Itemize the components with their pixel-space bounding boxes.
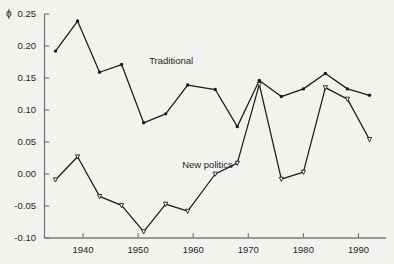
datapoint-new-politics-1951 [142,230,146,234]
x-tick-label-4: 1980 [283,244,323,255]
y-tick-label-3: 0.10 [2,104,36,115]
y-tick-label-1: 0.20 [2,40,36,51]
datapoint-traditional-1955 [164,112,167,115]
series-line-traditional [56,21,370,127]
y-tick-label-6: -0.05 [2,200,36,211]
x-tick-label-5: 1990 [338,244,378,255]
datapoint-traditional-1968 [236,125,239,128]
datapoint-traditional-1935 [54,49,57,52]
datapoint-new-politics-1984 [323,86,327,90]
datapoint-traditional-1988 [346,87,349,90]
x-tick-label-3: 1970 [228,244,268,255]
y-tick-label-0: 0.25 [2,8,36,19]
chart-axes [45,14,387,238]
datapoint-traditional-1976 [280,95,283,98]
y-tick-label-4: 0.05 [2,136,36,147]
datapoint-traditional-1947 [120,63,123,66]
y-tick-label-7: -0.10 [2,232,36,243]
datapoint-traditional-1980 [302,87,305,90]
datapoint-new-politics-1980 [301,170,305,174]
chart-series-layer [53,19,371,234]
y-tick-label-2: 0.15 [2,72,36,83]
datapoint-traditional-1943 [98,71,101,74]
datapoint-new-politics-1976 [279,177,283,181]
annotation-new-politics: New politics [182,159,233,170]
datapoint-new-politics-1968 [235,161,239,165]
annotation-traditional: Traditional [149,55,193,66]
chart-figure: ϕ 0.250.200.150.100.050.00-0.05-0.10 194… [0,0,394,264]
y-tick-label-5: 0.00 [2,168,36,179]
datapoint-traditional-1964 [214,88,217,91]
datapoint-new-politics-1992 [367,138,371,142]
x-tick-label-2: 1960 [173,244,213,255]
datapoint-new-politics-1959 [186,209,190,213]
datapoint-new-politics-1935 [53,178,57,182]
datapoint-traditional-1951 [142,121,145,124]
datapoint-traditional-1984 [324,72,327,75]
datapoint-traditional-1939 [76,19,79,22]
datapoint-traditional-1959 [186,83,189,86]
x-tick-label-1: 1950 [118,244,158,255]
datapoint-traditional-1992 [368,94,371,97]
datapoint-new-politics-1972 [257,83,261,87]
datapoint-new-politics-1943 [97,195,101,199]
x-tick-label-0: 1940 [63,244,103,255]
datapoint-traditional-1972 [258,79,261,82]
line-chart-plot [0,0,394,264]
